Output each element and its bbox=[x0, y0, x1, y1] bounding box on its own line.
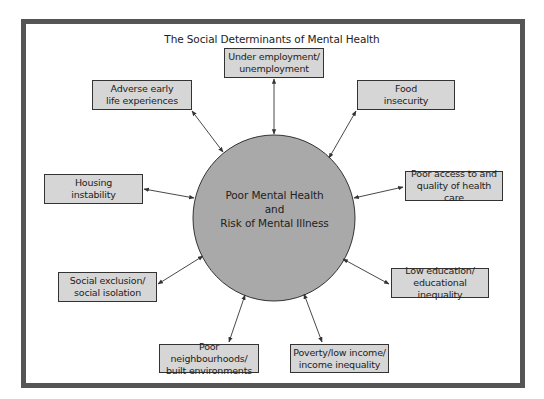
box-label-line1: Poor neighbourhoods/ bbox=[160, 341, 258, 365]
box-label-line1: Under employment/ bbox=[228, 51, 320, 63]
arrow-food-insecurity bbox=[329, 111, 356, 158]
arrow-social-exclusion bbox=[158, 256, 203, 284]
box-label-line2: quality of health care bbox=[406, 180, 502, 204]
box-label-line2: built environments bbox=[160, 365, 258, 377]
box-label-line1: Social exclusion/ bbox=[70, 275, 145, 287]
center-label-line2: and bbox=[193, 202, 356, 216]
center-label-line1: Poor Mental Health bbox=[193, 188, 356, 202]
box-label-line2: educational inequality bbox=[392, 277, 488, 301]
box-label-line1: Adverse early bbox=[106, 83, 178, 95]
box-label-line2: instability bbox=[71, 189, 115, 201]
arrow-poor-access bbox=[354, 187, 403, 198]
box-label-line1: Food bbox=[384, 83, 429, 95]
center-label-line3: Risk of Mental Illness bbox=[193, 216, 356, 230]
box-label-line1: Poor access to and bbox=[406, 168, 502, 180]
box-label-line2: social isolation bbox=[70, 287, 145, 299]
arrow-adverse-early-life bbox=[192, 111, 223, 152]
box-adverse-early-life: Adverse earlylife experiences bbox=[92, 80, 192, 110]
arrow-poverty bbox=[304, 294, 322, 342]
box-label-line2: unemployment bbox=[228, 63, 320, 75]
box-social-exclusion: Social exclusion/social isolation bbox=[58, 272, 157, 302]
arrow-low-education bbox=[343, 259, 389, 284]
box-label-line2: life experiences bbox=[106, 95, 178, 107]
arrow-poor-neighbourhoods bbox=[229, 295, 245, 342]
box-label-line2: insecurity bbox=[384, 95, 429, 107]
box-label-line1: Poverty/low income/ bbox=[293, 347, 386, 359]
box-poor-neighbourhoods: Poor neighbourhoods/built environments bbox=[159, 344, 259, 373]
box-label-line1: Low education/ bbox=[392, 265, 488, 277]
arrow-housing-instability bbox=[144, 189, 194, 198]
center-label: Poor Mental Health and Risk of Mental Il… bbox=[193, 188, 356, 230]
box-poor-access-health-care: Poor access to andquality of health care bbox=[405, 171, 503, 201]
box-label-line2: income inequality bbox=[293, 359, 386, 371]
box-food-insecurity: Foodinsecurity bbox=[357, 80, 455, 110]
box-housing-instability: Housinginstability bbox=[44, 174, 143, 204]
box-under-employment: Under employment/unemployment bbox=[224, 48, 324, 78]
box-label-line1: Housing bbox=[71, 177, 115, 189]
box-low-education: Low education/educational inequality bbox=[391, 268, 489, 298]
box-poverty: Poverty/low income/income inequality bbox=[290, 344, 389, 373]
